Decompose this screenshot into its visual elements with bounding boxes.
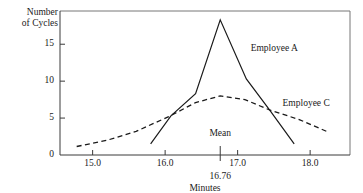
series-label-employee-a: Employee A [251,43,298,54]
x-tick-label-16.0: 16.0 [150,158,180,169]
chart-container: Numberof Cycles 051015 15.016.017.018.0 … [0,0,363,193]
y-axis-title-line1: Number [27,7,58,17]
series-label-employee-c: Employee C [283,98,330,109]
y-tick-label-10: 10 [36,75,54,86]
y-axis-ticks [60,44,65,118]
x-axis-title: Minutes [175,183,235,193]
y-tick-label-0: 0 [36,149,54,160]
x-tick-label-17.0: 17.0 [223,158,253,169]
x-tick-label-15.0: 15.0 [78,158,108,169]
y-tick-label-5: 5 [36,112,54,123]
mean-label: Mean [200,128,240,139]
mean-value-label: 16.76 [200,171,240,182]
y-axis-title: Numberof Cycles [2,7,58,28]
y-tick-label-15: 15 [36,38,54,49]
y-axis-title-line2: of Cycles [22,18,58,28]
x-axis-ticks [93,150,311,155]
x-tick-label-18.0: 18.0 [295,158,325,169]
series-line-employee-a [151,20,295,144]
